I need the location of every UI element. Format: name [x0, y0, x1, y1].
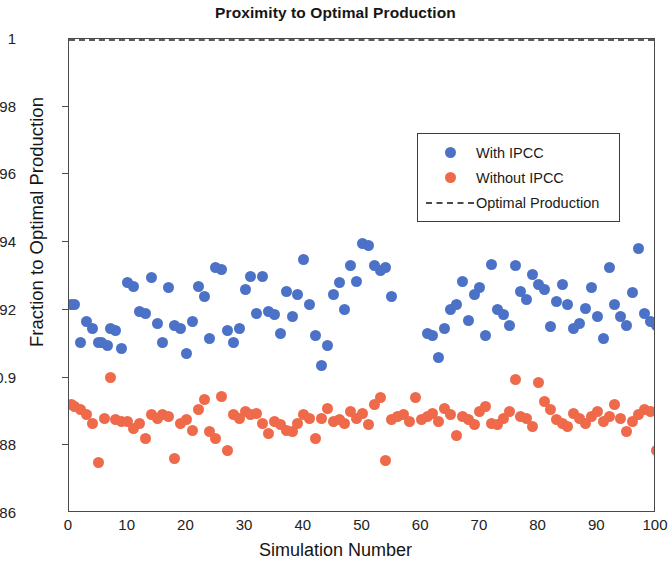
data-point [562, 299, 573, 310]
data-point [498, 309, 509, 320]
legend-item-without-ipcc: Without IPCC [424, 165, 611, 190]
legend-label: Optimal Production [476, 195, 599, 211]
data-point [87, 323, 98, 334]
data-point [193, 281, 204, 292]
data-point [427, 330, 438, 341]
x-tick-label: 10 [118, 516, 135, 533]
data-point [128, 281, 139, 292]
data-point [245, 271, 256, 282]
data-point [105, 372, 116, 383]
chart-title: Proximity to Optimal Production [0, 4, 671, 22]
data-point [469, 419, 480, 430]
data-point [204, 333, 215, 344]
data-point [486, 259, 497, 270]
data-point [551, 296, 562, 307]
data-point [339, 418, 350, 429]
data-point [375, 392, 386, 403]
data-point [345, 260, 356, 271]
data-point [621, 320, 632, 331]
data-point [334, 277, 345, 288]
data-point [140, 308, 151, 319]
data-point [181, 414, 192, 425]
data-point [504, 406, 515, 417]
data-point [580, 303, 591, 314]
data-point [621, 426, 632, 437]
data-point [146, 272, 157, 283]
x-tick-label: 40 [294, 516, 311, 533]
legend-dashed-line-icon [424, 202, 476, 204]
data-point [193, 404, 204, 415]
data-point [651, 445, 655, 456]
data-point [592, 311, 603, 322]
legend-label: Without IPCC [476, 170, 564, 186]
data-point [216, 391, 227, 402]
data-point [187, 316, 198, 327]
optimal-production-reference-line [69, 39, 654, 41]
data-point [102, 340, 113, 351]
legend-marker-icon [424, 147, 476, 158]
data-point [598, 333, 609, 344]
data-point [451, 430, 462, 441]
data-point [298, 254, 309, 265]
data-point [157, 337, 168, 348]
data-point [287, 311, 298, 322]
data-point [363, 419, 374, 430]
y-tick-label: 0.92 [0, 300, 16, 317]
data-point [439, 323, 450, 334]
data-point [645, 406, 654, 417]
y-axis-label: Fraction to Optimal Production [26, 2, 48, 442]
x-tick-label: 100 [642, 516, 667, 533]
data-point [222, 445, 233, 456]
data-point [316, 413, 327, 424]
data-point [216, 264, 227, 275]
data-point [310, 330, 321, 341]
data-point [110, 325, 121, 336]
data-point [510, 374, 521, 385]
data-point [527, 421, 538, 432]
data-point [93, 457, 104, 468]
y-tick-label: 0.88 [0, 436, 16, 453]
data-point [474, 282, 485, 293]
data-point [269, 309, 280, 320]
data-point [539, 284, 550, 295]
y-tick-label: 0.9 [0, 368, 16, 385]
data-point [310, 433, 321, 444]
data-point [99, 413, 110, 424]
x-tick-label: 80 [529, 516, 546, 533]
x-axis-label: Simulation Number [0, 540, 671, 561]
data-point [615, 413, 626, 424]
data-point [521, 294, 532, 305]
data-point [275, 328, 286, 339]
data-point [210, 433, 221, 444]
data-point [199, 394, 210, 405]
data-point [140, 433, 151, 444]
data-point [545, 321, 556, 332]
data-point [292, 289, 303, 300]
data-point [410, 392, 421, 403]
data-point [533, 377, 544, 388]
data-point [574, 318, 585, 329]
data-point [463, 315, 474, 326]
data-point [586, 282, 597, 293]
data-point [633, 243, 644, 254]
data-point [169, 453, 180, 464]
plot-area [68, 38, 655, 512]
data-point [339, 304, 350, 315]
data-point [510, 260, 521, 271]
data-point [380, 262, 391, 273]
chart-figure: Proximity to Optimal Production Fraction… [0, 0, 671, 569]
data-point [175, 323, 186, 334]
y-tick-label: 1 [8, 30, 16, 47]
data-point [562, 421, 573, 432]
legend-item-optimal-production: Optimal Production [424, 190, 611, 215]
data-point [380, 455, 391, 466]
data-point [152, 318, 163, 329]
data-point [627, 287, 638, 298]
data-point [116, 343, 127, 354]
legend-label: With IPCC [476, 145, 544, 161]
x-tick-label: 60 [412, 516, 429, 533]
data-point [404, 416, 415, 427]
x-tick-label: 20 [177, 516, 194, 533]
data-point [228, 337, 239, 348]
data-point [69, 299, 80, 310]
